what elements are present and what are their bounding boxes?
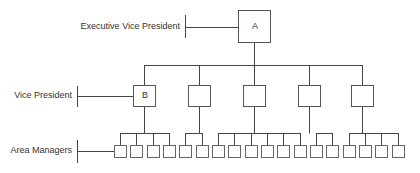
- area-manager-box: [197, 146, 209, 158]
- area-manager-box: [148, 146, 160, 158]
- node-box-vp-4: [299, 86, 321, 107]
- area-manager-box: [213, 146, 225, 158]
- node-label-a: A: [239, 21, 271, 31]
- area-manager-box: [327, 146, 339, 158]
- area-manager-box: [295, 146, 307, 158]
- area-manager-box: [344, 146, 356, 158]
- node-box-vp-5: [352, 86, 374, 107]
- level-label-executive-vice-president: Executive Vice President: [81, 21, 180, 31]
- node-label-b: B: [134, 90, 156, 100]
- area-manager-box: [311, 146, 323, 158]
- area-manager-box: [393, 146, 405, 158]
- area-manager-box: [131, 146, 143, 158]
- area-manager-box: [229, 146, 241, 158]
- level-label-vice-president: Vice President: [14, 90, 72, 100]
- area-manager-box: [246, 146, 258, 158]
- node-box-vp-3: [244, 86, 266, 107]
- area-manager-box: [115, 146, 127, 158]
- area-manager-box: [262, 146, 274, 158]
- area-manager-box: [164, 146, 176, 158]
- level-label-area-managers: Area Managers: [10, 145, 72, 155]
- area-manager-box: [360, 146, 372, 158]
- node-box-vp-2: [189, 86, 211, 107]
- area-manager-box: [376, 146, 388, 158]
- area-manager-box: [278, 146, 290, 158]
- area-manager-box: [180, 146, 192, 158]
